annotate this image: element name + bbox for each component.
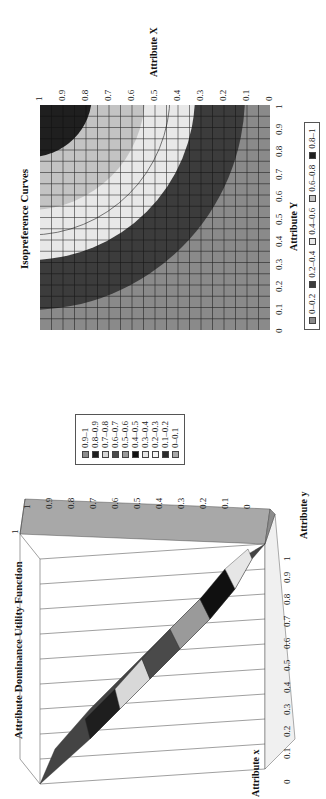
y-tick: 0.3	[282, 704, 292, 715]
x-attr-tick: 0.1	[241, 90, 251, 101]
y-tick: 0	[282, 780, 292, 785]
legend-swatch	[122, 451, 129, 458]
z-tick: 0.5	[132, 498, 142, 509]
z-tick: 0.2	[198, 498, 208, 509]
y-tick: 0.7	[282, 616, 292, 627]
legend-swatch	[309, 152, 316, 159]
contour-y-axis-label: Attribute X	[148, 27, 159, 77]
legend-item: 0.9–1	[80, 421, 90, 458]
legend-item: 0.4–0.5	[130, 421, 140, 458]
x-attr-tick: 0.3	[195, 90, 205, 101]
y-tick: 0.6	[282, 638, 292, 649]
y-tick: 0.2	[282, 726, 292, 737]
y-attr-tick: 0.3	[274, 259, 284, 270]
y-attr-tick: 0.1	[274, 304, 284, 315]
legend-swatch	[102, 451, 109, 458]
z-tick: 0.4	[154, 498, 164, 509]
z-tick: 0.3	[176, 498, 186, 509]
z-tick: 0.8	[66, 498, 76, 509]
legend-item: 0.6–0.7	[110, 421, 120, 458]
z-tick: 1	[10, 530, 20, 535]
y-attr-tick: 0	[274, 329, 284, 334]
legend-item: 0.1–0.2	[160, 421, 170, 458]
z-tick: 0.1	[220, 498, 230, 509]
legend-swatch	[309, 195, 316, 202]
y-attr-tick: 0.6	[274, 191, 284, 202]
y-tick: 0.1	[282, 748, 292, 759]
y-tick: 0.9	[282, 572, 292, 583]
x-attr-tick: 0.8	[80, 90, 90, 101]
y-attr-tick: 0.5	[274, 214, 284, 225]
legend-item: 0–0.2	[307, 294, 317, 324]
y-attr-tick: 0.4	[274, 236, 284, 247]
contour-chart-title: Isopreference Curves	[18, 169, 30, 269]
surface-plot	[20, 469, 320, 799]
legend-swatch	[142, 451, 149, 458]
y-attr-tick: 0.8	[274, 146, 284, 157]
legend-swatch	[172, 451, 179, 458]
z-tick: 0.9	[44, 498, 54, 509]
legend-item: 0.4–0.6	[307, 208, 317, 245]
legend-item: 0.5–0.6	[120, 421, 130, 458]
y-attr-tick: 1	[274, 105, 284, 110]
figure-canvas: Attribute Dominance Utility Function	[0, 0, 326, 799]
legend-swatch	[92, 451, 99, 458]
legend-swatch	[309, 317, 316, 324]
contour-plot	[40, 105, 270, 330]
contour-x-axis-label: Attribute Y	[288, 202, 299, 251]
x-attr-tick: 0	[264, 97, 274, 102]
surface-legend: 0.9–1 0.8–0.9 0.7–0.8 0.6–0.7 0.5–0.6 0.…	[75, 414, 185, 465]
x-attr-tick: 0.7	[103, 90, 113, 101]
legend-item: 0–0.1	[170, 421, 180, 458]
legend-item: 0.2–0.4	[307, 251, 317, 288]
z-tick: 0.6	[110, 498, 120, 509]
surface-x-axis-label: Attribute x	[250, 750, 261, 798]
legend-swatch	[132, 451, 139, 458]
legend-swatch	[309, 238, 316, 245]
x-attr-tick: 1	[34, 97, 44, 102]
y-tick: 0.8	[282, 594, 292, 605]
contour-legend: 0–0.2 0.2–0.4 0.4–0.6 0.6–0.8 0.8–1	[304, 123, 320, 331]
x-attr-tick: 0.6	[126, 90, 136, 101]
y-attr-tick: 0.7	[274, 169, 284, 180]
legend-swatch	[112, 451, 119, 458]
x-attr-tick: 0.5	[149, 90, 159, 101]
z-tick: 0.7	[88, 498, 98, 509]
surface-y-axis-label: Attribute y	[298, 492, 309, 540]
legend-item: 0.7–0.8	[100, 421, 110, 458]
y-tick: 0.5	[282, 660, 292, 671]
legend-item: 0.3–0.4	[140, 421, 150, 458]
y-tick: 0.4	[282, 682, 292, 693]
legend-swatch	[82, 451, 89, 458]
legend-item: 0.6–0.8	[307, 165, 317, 202]
legend-item: 0.8–1	[307, 129, 317, 159]
legend-swatch	[162, 451, 169, 458]
z-tick: 1	[22, 505, 32, 510]
y-attr-tick: 0.9	[274, 124, 284, 135]
legend-item: 0.2–0.3	[150, 421, 160, 458]
x-attr-tick: 0.9	[57, 90, 67, 101]
legend-swatch	[152, 451, 159, 458]
legend-swatch	[309, 281, 316, 288]
legend-item: 0.8–0.9	[90, 421, 100, 458]
x-attr-tick: 0.4	[172, 90, 182, 101]
x-attr-tick: 0.2	[218, 90, 228, 101]
y-attr-tick: 0.2	[274, 281, 284, 292]
y-tick: 1	[282, 557, 292, 562]
z-tick: 0	[242, 505, 252, 510]
